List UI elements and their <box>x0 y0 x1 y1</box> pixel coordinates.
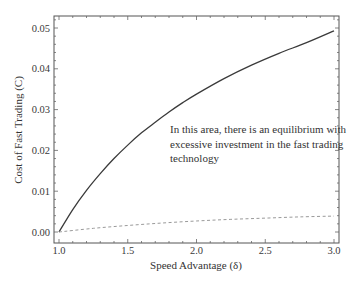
annotation-line: excessive investment in the fast trading <box>170 138 344 150</box>
x-tick-label: 1.0 <box>52 245 65 256</box>
y-axis-title: Cost of Fast Trading (C) <box>12 76 25 184</box>
y-tick-label: 0.01 <box>32 186 50 197</box>
chart: 0.000.010.020.030.040.05 1.01.52.02.53.0… <box>0 0 356 284</box>
y-tick-label: 0.02 <box>32 145 50 156</box>
x-tick-label: 1.5 <box>121 245 134 256</box>
annotation-line: technology <box>170 152 219 164</box>
x-tick-label: 2.5 <box>259 245 272 256</box>
dashed-curve <box>59 216 334 232</box>
x-tick-label: 2.0 <box>190 245 203 256</box>
y-tick-label: 0.03 <box>32 104 50 115</box>
annotation-text: In this area, there is an equilibrium wi… <box>170 123 346 164</box>
y-tick-label: 0.05 <box>32 23 50 34</box>
x-axis-tick-labels: 1.01.52.02.53.0 <box>52 245 340 256</box>
y-axis-tick-labels: 0.000.010.020.030.040.05 <box>32 23 51 238</box>
annotation-line: In this area, there is an equilibrium wi… <box>170 123 346 135</box>
x-axis-title: Speed Advantage (δ) <box>150 259 242 272</box>
y-tick-label: 0.04 <box>32 63 51 74</box>
x-tick-label: 3.0 <box>327 245 340 256</box>
y-tick-label: 0.00 <box>32 227 50 238</box>
